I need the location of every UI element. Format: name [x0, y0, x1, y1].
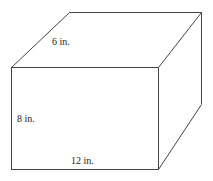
height-label: 8 in. [17, 113, 35, 124]
length-label: 12 in. [71, 155, 94, 166]
rectangular-prism-diagram: 6 in. 8 in. 12 in. [0, 0, 213, 181]
right-face-edges [159, 13, 202, 170]
depth-label: 6 in. [52, 36, 70, 47]
prism-edges [12, 13, 202, 170]
top-face-edges [12, 13, 202, 68]
